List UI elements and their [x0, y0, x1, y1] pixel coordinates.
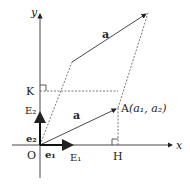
- vector-E2-label: E₂: [25, 105, 36, 116]
- x-axis-label: x: [176, 139, 183, 152]
- origin-label: O: [27, 149, 36, 162]
- right-angle-K: [40, 85, 46, 91]
- point-A-label: A(a₁, a₂): [120, 102, 166, 115]
- vector-e2-label: e₂: [26, 133, 37, 144]
- vector-a-lower-label: a: [73, 109, 80, 122]
- y-axis-label: y: [30, 6, 38, 19]
- vector-a-upper-label: a: [102, 28, 109, 41]
- point-H-label: H: [113, 150, 123, 163]
- right-angle-H: [112, 139, 118, 145]
- dashed-A-to-tip: [118, 13, 148, 108]
- vector-e1-label: e₁: [45, 149, 56, 160]
- vector-diagram: y x O K H A(a₁, a₂) a a e₂ e₁ E₂ E₁: [0, 0, 190, 190]
- vector-E1-label: E₁: [70, 152, 81, 163]
- point-K-label: K: [26, 85, 35, 98]
